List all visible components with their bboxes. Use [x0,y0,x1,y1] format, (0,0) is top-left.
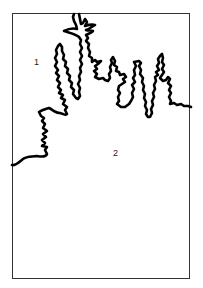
diagram-figure: 1 2 [0,0,203,288]
treeline-boundary [0,0,203,288]
region-label-2: 2 [113,149,118,158]
region-label-1: 1 [34,58,39,67]
